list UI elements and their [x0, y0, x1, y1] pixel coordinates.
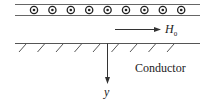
field-arrow [115, 27, 161, 32]
hatch-mark [56, 44, 63, 52]
conductor-hatching [19, 44, 174, 52]
hatch-mark [93, 44, 100, 52]
arrowhead-icon [154, 27, 161, 32]
current-dot-icon [88, 9, 91, 12]
current-dot-icon [70, 9, 73, 12]
hatch-mark [167, 44, 174, 52]
current-dot-icon [162, 9, 165, 12]
current-dot-icon [106, 9, 109, 12]
arrowhead-icon [105, 77, 110, 84]
diagram-svg: H0 y Conductor [0, 0, 210, 102]
conductor-label: Conductor [135, 61, 186, 75]
current-symbols [30, 6, 184, 13]
hatch-mark [130, 44, 137, 52]
hatch-mark [149, 44, 156, 52]
y-axis-label: y [103, 85, 110, 99]
current-dot-icon [125, 9, 128, 12]
current-dot-icon [33, 9, 36, 12]
hatch-mark [75, 44, 82, 52]
diagram-canvas: H0 y Conductor [0, 0, 210, 102]
current-dot-icon [51, 9, 54, 12]
field-label: H0 [164, 22, 178, 38]
current-dot-icon [180, 9, 183, 12]
y-axis [105, 44, 110, 85]
hatch-mark [19, 44, 26, 52]
hatch-mark [38, 44, 45, 52]
current-dot-icon [143, 9, 146, 12]
hatch-mark [112, 44, 119, 52]
